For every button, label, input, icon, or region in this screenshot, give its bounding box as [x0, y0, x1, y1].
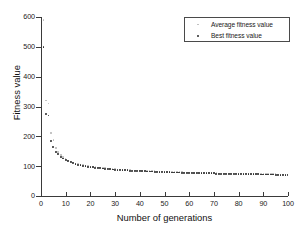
data-point — [82, 165, 84, 167]
x-tick-label: 100 — [275, 200, 301, 207]
data-point — [50, 132, 52, 134]
data-point — [166, 171, 168, 173]
legend-marker-best-icon — [185, 35, 211, 37]
data-point — [161, 171, 163, 173]
legend-entry-best: Best fitness value — [185, 30, 291, 41]
legend-label-average: Average fitness value — [211, 21, 273, 28]
y-tick-label: 100 — [5, 163, 35, 170]
x-tick-label: 90 — [250, 200, 276, 207]
data-point — [151, 171, 153, 173]
data-point — [55, 147, 57, 149]
plot-area — [41, 17, 288, 196]
x-tick-label: 30 — [102, 200, 128, 207]
data-point — [287, 174, 288, 176]
data-point — [77, 164, 79, 166]
data-point — [178, 172, 180, 174]
data-point — [50, 140, 52, 142]
data-point — [119, 169, 121, 171]
x-axis-line — [41, 196, 288, 197]
data-point — [235, 173, 237, 175]
data-point — [188, 172, 190, 174]
x-tick-label: 20 — [77, 200, 103, 207]
data-point — [215, 173, 217, 175]
data-point — [72, 162, 74, 164]
chart-figure: 0100200300400500600 01020304050607080901… — [0, 0, 302, 235]
data-point — [230, 173, 232, 175]
data-point — [94, 167, 96, 169]
data-point — [87, 166, 89, 168]
data-point — [141, 170, 143, 172]
data-point — [109, 168, 111, 170]
data-point — [208, 172, 210, 174]
data-point — [250, 173, 252, 175]
data-point — [114, 169, 116, 171]
legend-label-best: Best fitness value — [211, 32, 262, 39]
data-point — [62, 158, 64, 160]
data-point — [220, 173, 222, 175]
data-point — [48, 115, 50, 117]
data-point — [53, 139, 55, 141]
data-point — [262, 174, 264, 176]
data-point — [173, 172, 175, 174]
data-point — [183, 172, 185, 174]
data-point — [52, 146, 54, 148]
x-axis-title: Number of generations — [41, 213, 288, 222]
x-tick-label: 50 — [152, 200, 178, 207]
data-point — [198, 172, 200, 174]
x-tick-label: 60 — [176, 200, 202, 207]
data-point — [245, 173, 247, 175]
y-tick-label: 600 — [5, 13, 35, 20]
data-point — [48, 103, 50, 105]
data-point — [203, 172, 205, 174]
data-point — [282, 174, 284, 176]
y-axis-title: Fitness value — [12, 33, 21, 153]
data-point — [57, 153, 59, 155]
data-point — [193, 172, 195, 174]
data-point — [43, 19, 45, 21]
y-tick — [36, 196, 41, 197]
x-tick — [288, 192, 289, 196]
data-point — [225, 173, 227, 175]
legend-entry-average: Average fitness value — [185, 19, 291, 30]
data-point — [104, 168, 106, 170]
data-point — [45, 100, 47, 102]
data-point — [272, 174, 274, 176]
data-point — [43, 46, 45, 48]
data-point — [67, 160, 69, 162]
data-point — [257, 173, 259, 175]
data-point — [146, 171, 148, 173]
x-tick-label: 70 — [201, 200, 227, 207]
data-point — [124, 169, 126, 171]
x-tick-label: 10 — [53, 200, 79, 207]
data-point — [45, 113, 47, 115]
data-point — [240, 173, 242, 175]
data-point — [156, 171, 158, 173]
x-tick-label: 40 — [127, 200, 153, 207]
chart-legend: Average fitness value Best fitness value — [184, 17, 290, 42]
x-tick-label: 80 — [226, 200, 252, 207]
x-tick-label: 0 — [28, 200, 54, 207]
data-point — [277, 174, 279, 176]
legend-marker-average-icon — [185, 24, 211, 26]
y-tick-label: 0 — [5, 192, 35, 199]
